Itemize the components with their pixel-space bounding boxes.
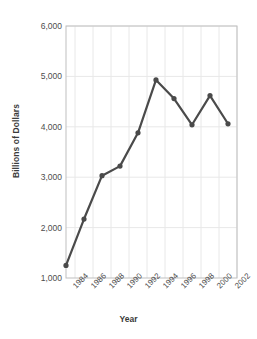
data-point bbox=[171, 96, 176, 101]
data-point bbox=[81, 216, 86, 221]
plot-border bbox=[66, 26, 237, 278]
x-axis-title: Year bbox=[0, 314, 257, 324]
data-point bbox=[63, 263, 68, 268]
data-point bbox=[153, 77, 158, 82]
data-point bbox=[189, 122, 194, 127]
data-point bbox=[207, 93, 212, 98]
data-point bbox=[99, 173, 104, 178]
data-point bbox=[225, 121, 230, 126]
data-point bbox=[117, 164, 122, 169]
data-point bbox=[135, 130, 140, 135]
line-chart: Billions of Dollars 6,0005,0004,0003,000… bbox=[0, 0, 257, 339]
